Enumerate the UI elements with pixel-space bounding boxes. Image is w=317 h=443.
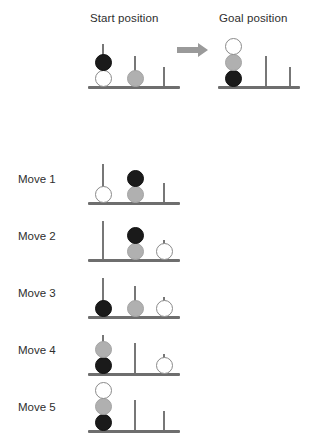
disc-black[interactable] [95,357,112,374]
peg-3[interactable] [163,67,165,86]
move-4-board [88,329,180,379]
peg-2[interactable] [134,400,136,430]
disc-white[interactable] [225,38,242,55]
disc-gray[interactable] [127,300,144,317]
peg-1[interactable] [102,221,104,259]
peg-3[interactable] [163,411,165,430]
move-2-board [88,215,180,265]
move-label-4: Move 4 [18,344,56,356]
move-label-2: Move 2 [18,230,56,242]
start-board [88,38,180,92]
disc-black[interactable] [95,414,112,431]
goal-position-heading: Goal position [219,12,287,24]
disc-white[interactable] [95,70,112,87]
move-label-3: Move 3 [18,287,56,299]
move-5-board [88,386,180,436]
disc-gray[interactable] [127,243,144,260]
move-label-5: Move 5 [18,401,56,413]
disc-white[interactable] [95,382,112,399]
disc-gray[interactable] [225,54,242,71]
arrow-right-icon [177,43,209,57]
disc-white[interactable] [95,186,112,203]
start-position-heading: Start position [90,12,159,24]
disc-white[interactable] [156,300,173,317]
move-1-board [88,158,180,208]
disc-gray[interactable] [127,186,144,203]
disc-gray[interactable] [127,70,144,87]
peg-2[interactable] [265,56,267,86]
disc-black[interactable] [95,300,112,317]
disc-black[interactable] [127,227,144,244]
disc-white[interactable] [156,357,173,374]
disc-gray[interactable] [95,398,112,415]
puzzle-figure: Start position Goal position Move 1Move … [0,0,317,443]
move-label-1: Move 1 [18,173,56,185]
peg-2[interactable] [134,343,136,373]
disc-white[interactable] [156,243,173,260]
disc-black[interactable] [127,170,144,187]
disc-gray[interactable] [95,341,112,358]
disc-black[interactable] [225,70,242,87]
disc-black[interactable] [95,54,112,71]
peg-3[interactable] [163,183,165,202]
peg-3[interactable] [289,67,291,86]
goal-board [218,38,300,92]
move-3-board [88,272,180,322]
